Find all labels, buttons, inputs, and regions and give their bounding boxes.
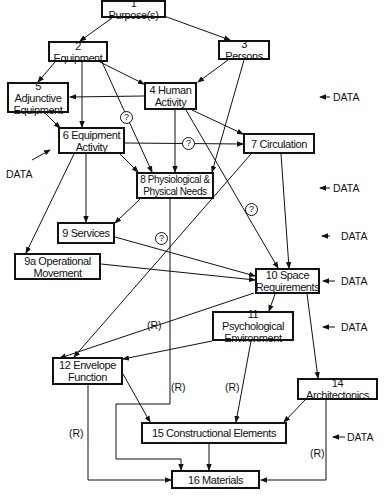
node-equipment-activity: 6 Equipment Activity	[58, 127, 125, 154]
question-marker: ?	[245, 203, 258, 216]
r-label: (R)	[69, 428, 84, 439]
node-persons: 3 Persons	[218, 40, 270, 60]
node-materials: 16 Materials	[171, 470, 260, 489]
node-space-requirements: 10 Space Requirements	[255, 268, 320, 294]
node-physiological-needs: 8 Physiological & Physical Needs	[136, 172, 214, 199]
data-label: DATA	[6, 169, 32, 180]
question-marker: ?	[155, 232, 168, 245]
question-marker: ?	[120, 111, 133, 124]
r-label: (R)	[171, 382, 186, 393]
r-label: (R)	[225, 382, 240, 393]
node-constructional-elements: 15 Constructional Elements	[141, 422, 287, 444]
node-operational-movement: 9a Operational Movement	[14, 253, 101, 280]
data-label: DATA	[333, 183, 359, 194]
node-envelope-function: 12 Envelope Function	[52, 357, 123, 385]
node-equipment: 2 Equipment	[48, 41, 108, 62]
node-purposes: 1 Purpose(s)	[101, 0, 166, 18]
r-label: (R)	[310, 448, 325, 459]
node-human-activity: 4 Human Activity	[144, 82, 197, 110]
node-services: 9 Services	[57, 222, 115, 244]
node-circulation: 7 Circulation	[243, 133, 315, 154]
data-label: DATA	[333, 92, 359, 103]
data-label: DATA	[347, 432, 373, 443]
r-label: (R)	[147, 320, 162, 331]
question-marker: ?	[182, 137, 195, 150]
data-label: DATA	[341, 276, 367, 287]
data-label: DATA	[341, 322, 367, 333]
node-psychological-environment: 11 Psychological Environment	[212, 311, 294, 341]
data-label: DATA	[341, 231, 367, 242]
node-adjunctive-equipment: 5 Adjunctive Equipment	[7, 82, 69, 113]
node-architectonics: 14 Architectonics	[297, 378, 378, 400]
